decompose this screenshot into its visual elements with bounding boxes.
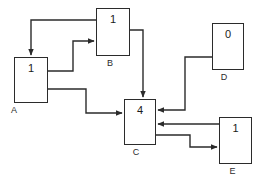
edge-d-to-c: [158, 57, 212, 110]
node-a-value: 1: [15, 62, 47, 74]
node-d[interactable]: 0: [212, 23, 244, 70]
edge-b-to-c: [130, 30, 143, 97]
diagram-canvas: 1A1B4C0D1E: [0, 0, 265, 185]
node-e-value: 1: [220, 122, 251, 134]
node-e[interactable]: 1: [219, 117, 252, 164]
node-c[interactable]: 4: [124, 99, 156, 145]
node-a-label: A: [0, 105, 34, 115]
node-b[interactable]: 1: [96, 8, 130, 56]
node-a[interactable]: 1: [14, 57, 48, 103]
node-e-label: E: [213, 166, 253, 176]
edge-c-to-e: [156, 135, 217, 147]
edge-a-to-c: [48, 89, 122, 113]
node-b-value: 1: [97, 13, 129, 25]
edge-b-to-a: [31, 20, 96, 55]
node-b-label: B: [90, 58, 130, 68]
node-c-value: 4: [125, 104, 155, 116]
edge-a-to-b: [48, 41, 94, 71]
node-d-label: D: [204, 72, 244, 82]
node-d-value: 0: [213, 28, 243, 40]
node-c-label: C: [116, 147, 156, 157]
